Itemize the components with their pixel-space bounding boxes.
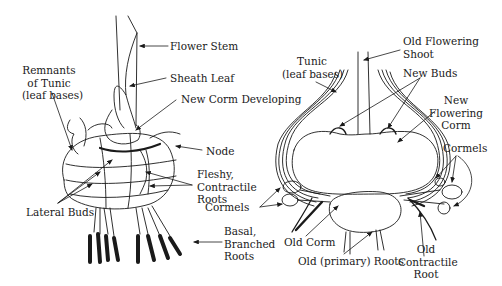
label-lateral-buds: Lateral Buds (26, 206, 94, 219)
label-new-buds: New Buds (403, 67, 457, 80)
label-cormels-left: Cormels (205, 201, 249, 214)
label-new-flowering-corm: New Flowering Corm (428, 94, 484, 132)
label-old-flowering-shoot: Old Flowering Shoot (403, 35, 479, 60)
right-corm-drawing (276, 52, 462, 254)
label-old-corm: Old Corm (284, 236, 335, 249)
label-sheath-leaf: Sheath Leaf (170, 72, 234, 85)
left-corm-drawing (63, 16, 181, 236)
label-cormels-right: Cormels (443, 142, 487, 155)
label-old-contractile-root: Old Contractile Root (398, 243, 454, 281)
label-node: Node (206, 145, 234, 158)
label-fleshy-contractile-roots: Fleshy, Contractile Roots (197, 168, 257, 206)
label-tunic-leaf-bases: Tunic (leaf bases) (282, 55, 342, 80)
label-remnants-of-tunic: Remnants of Tunic (leaf bases) (22, 64, 76, 102)
basal-roots-drawing (90, 234, 180, 262)
label-old-primary-roots: Old (primary) Roots (298, 255, 404, 268)
corm-anatomy-diagram: Flower Stem Sheath Leaf Remnants of Tuni… (0, 0, 502, 286)
label-flower-stem: Flower Stem (170, 40, 238, 53)
label-new-corm-developing: New Corm Developing (181, 93, 301, 106)
label-basal-branched-roots: Basal, Branched Roots (224, 225, 275, 263)
